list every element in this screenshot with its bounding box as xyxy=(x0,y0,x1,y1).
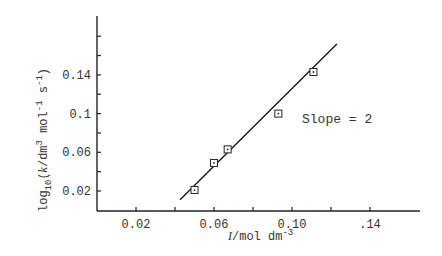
y-tick-label: 0.02 xyxy=(62,185,91,199)
y-tick-label: 0.14 xyxy=(62,69,91,83)
x-tick-label: 0.06 xyxy=(200,218,229,232)
y-axis-title: log10(k/dm3 mol-1 s-1) xyxy=(35,68,54,212)
y-tick-label: 0.1 xyxy=(69,108,91,122)
y-ticks: 0.020.060.10.14 xyxy=(62,36,101,199)
x-tick-label: 0.02 xyxy=(122,218,151,232)
data-point-marker xyxy=(310,68,317,75)
data-point-marker xyxy=(211,159,218,166)
data-point-marker xyxy=(224,146,231,153)
chart-canvas: 0.020.060.10.14 0.020.060.10.14 Slope = … xyxy=(0,0,442,256)
data-points xyxy=(191,68,317,193)
slope-annotation: Slope = 2 xyxy=(302,112,372,127)
x-axis-title: I/mol dm-3 xyxy=(227,228,293,244)
data-point-marker xyxy=(191,187,198,194)
data-point-marker xyxy=(275,110,282,117)
y-tick-label: 0.06 xyxy=(62,146,91,160)
x-tick-label: .14 xyxy=(359,218,381,232)
